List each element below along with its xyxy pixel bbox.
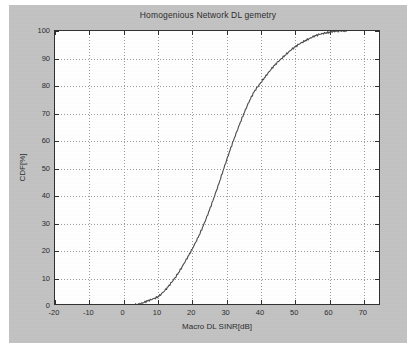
x-axis-tick-label: 50	[290, 308, 298, 317]
x-axis-tick-label: -10	[83, 308, 94, 317]
y-axis-tick-label: 50	[28, 163, 50, 172]
y-axis-label: CDF[%]	[16, 30, 28, 305]
figure-window: Homogenious Network DL gemetry CDF[%] Ma…	[9, 5, 407, 343]
y-axis-tick-label: 30	[28, 218, 50, 227]
y-axis-label-text: CDF[%]	[18, 147, 27, 187]
y-axis-tick-label: 90	[28, 53, 50, 62]
y-axis-tick-label: 70	[28, 108, 50, 117]
chart-title: Homogenious Network DL gemetry	[9, 10, 407, 20]
x-axis-tick-label: -20	[49, 308, 60, 317]
plot-area	[55, 31, 379, 304]
y-axis-tick-label: 40	[28, 191, 50, 200]
cdf-curve	[55, 31, 379, 304]
y-axis-tick-label: 80	[28, 81, 50, 90]
x-axis-tick-label: 10	[153, 308, 161, 317]
y-axis-tick-label: 10	[28, 273, 50, 282]
y-axis-tick-label: 20	[28, 246, 50, 255]
y-axis-tick-label: 60	[28, 136, 50, 145]
x-axis-tick-label: 60	[324, 308, 332, 317]
y-axis-tick-label: 100	[28, 26, 50, 35]
x-axis-tick-label: 40	[256, 308, 264, 317]
x-axis-label: Macro DL SINR[dB]	[54, 322, 380, 331]
plot-axes	[54, 30, 380, 305]
y-axis-tick-label: 0	[28, 301, 50, 310]
x-axis-tick-label: 20	[187, 308, 195, 317]
x-axis-tick-label: 0	[121, 308, 125, 317]
cdf-curve-path	[55, 31, 347, 304]
x-axis-tick-label: 70	[359, 308, 367, 317]
x-axis-tick-label: 30	[221, 308, 229, 317]
